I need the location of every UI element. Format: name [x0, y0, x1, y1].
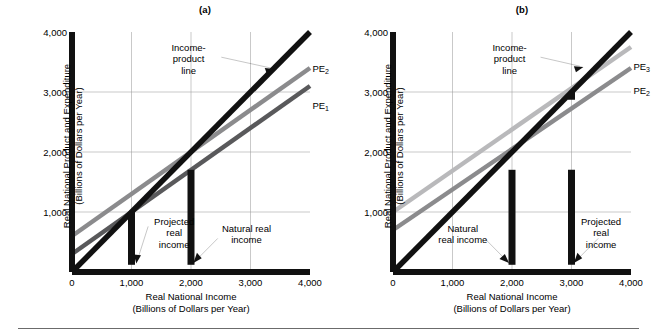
annotation-income-product-a-l1: Income-: [171, 42, 205, 53]
x-tick-a-3000: 3,000: [239, 277, 263, 288]
annotation-natural-real-income-b: Natural real income: [438, 223, 487, 246]
x-axis-title-a-line1: Real National Income: [146, 291, 237, 302]
footer-divider: [18, 328, 639, 329]
x-tick-b-4000: 4,000: [619, 277, 643, 288]
annotation-natural-b-l2: real income: [438, 234, 487, 245]
annotation-projected-a-l3: income: [159, 239, 190, 250]
annotation-natural-real-income-a: Natural real income: [222, 223, 271, 246]
annotation-projected-b-l1: Projected: [581, 216, 621, 227]
x-tick-b-3000: 3,000: [560, 277, 584, 288]
annotation-projected-b-l2: real: [593, 227, 609, 238]
y-tick-b-4000: 4,000: [364, 27, 388, 38]
annotation-projected-b-l3: income: [586, 239, 617, 250]
y-tick-a-4000: 4,000: [43, 27, 67, 38]
x-tick-b-0: 0: [390, 277, 395, 288]
curve-label-pe2-a-base: PE: [312, 63, 325, 74]
annotation-projected-a-l1: Projected: [154, 216, 194, 227]
curve-label-pe2-b: PE2: [633, 85, 650, 96]
annotation-natural-a-l2: income: [231, 234, 262, 245]
annotation-natural-a-l1: Natural real: [222, 223, 271, 234]
leader-arrow-natural-a: [193, 238, 217, 263]
leader-arrow-income-product-b: [541, 57, 584, 72]
curve-label-pe2-b-sub: 2: [646, 90, 650, 97]
y-axis-title-b-line2: (Billions of Dollars per Year): [393, 61, 405, 231]
y-axis-title-b: Real National Product and Expenditure (B…: [382, 61, 405, 231]
annotation-projected-real-income-b: Projected real income: [581, 216, 621, 251]
x-tick-b-2000: 2,000: [500, 277, 524, 288]
annotation-projected-real-income-a: Projected real income: [154, 216, 194, 251]
leader-arrow-natural-b: [485, 238, 509, 263]
x-axis-title-b-line2: (Billions of Dollars per Year): [453, 303, 570, 314]
x-tick-a-1000: 1,000: [120, 277, 144, 288]
y-axis-title-a-line1: Real National Product and Expenditure: [61, 61, 73, 231]
leader-arrow-projected-a: [134, 226, 148, 263]
x-axis-title-a-line2: (Billions of Dollars per Year): [132, 303, 249, 314]
x-axis-title-b-line1: Real National Income: [467, 291, 558, 302]
curve-label-pe3-b: PE3: [633, 61, 650, 72]
x-tick-a-0: 0: [69, 277, 74, 288]
x-tick-a-4000: 4,000: [298, 277, 322, 288]
curve-label-pe2-b-base: PE: [633, 85, 646, 96]
y-axis-title-a-line2: (Billions of Dollars per Year): [72, 61, 84, 231]
x-axis-title-b: Real National Income (Billions of Dollar…: [453, 291, 570, 314]
annotation-income-product-a: Income- product line: [171, 42, 205, 77]
annotation-income-product-a-l2: product: [173, 53, 205, 64]
chart-panel-b: (b) 4,000 3,000 2,000 1,000 0 1,000 2,00…: [327, 0, 657, 335]
annotation-income-product-b: Income- product line: [492, 42, 526, 77]
curve-label-pe3-b-sub: 3: [646, 66, 650, 73]
figure-root: (a) 4,000 3,000 2,000 1,000 0 1,000 2,00…: [0, 0, 657, 335]
y-axis-title-b-line1: Real National Product and Expenditure: [382, 61, 394, 231]
annotation-income-product-a-l3: line: [181, 65, 196, 76]
annotation-income-product-b-l3: line: [502, 65, 517, 76]
x-tick-a-2000: 2,000: [179, 277, 203, 288]
plot-area-b: 4,000 3,000 2,000 1,000 0 1,000 2,000 3,…: [393, 32, 631, 272]
x-tick-b-1000: 1,000: [441, 277, 465, 288]
annotation-projected-a-l2: real: [166, 227, 182, 238]
panel-b-title: (b): [327, 4, 657, 15]
curve-label-pe1-a-base: PE: [312, 100, 325, 111]
x-axis-title-a: Real National Income (Billions of Dollar…: [132, 291, 249, 314]
y-axis-title-a: Real National Product and Expenditure (B…: [61, 61, 84, 231]
annotation-income-product-b-l2: product: [494, 53, 526, 64]
panel-a-title: (a): [0, 4, 370, 15]
chart-panel-a: (a) 4,000 3,000 2,000 1,000 0 1,000 2,00…: [0, 0, 330, 335]
curve-label-pe3-b-base: PE: [633, 61, 646, 72]
annotation-income-product-b-l1: Income-: [492, 42, 526, 53]
plot-area-a: 4,000 3,000 2,000 1,000 0 1,000 2,000 3,…: [72, 32, 310, 272]
annotation-natural-b-l1: Natural: [447, 223, 478, 234]
leader-arrow-income-product-a: [221, 57, 274, 74]
